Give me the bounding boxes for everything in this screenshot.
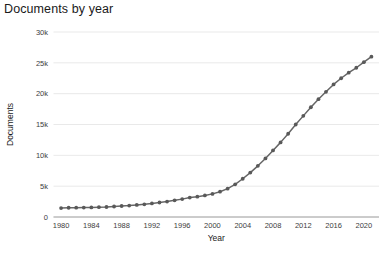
chart-plot-area: 05k10k15k20k25k30k 198019841988199219962… — [0, 0, 386, 256]
data-point-marker — [241, 177, 245, 181]
data-point-marker — [324, 90, 328, 94]
data-series-documents — [59, 55, 373, 210]
series-line-path — [61, 57, 371, 208]
data-point-marker — [135, 203, 139, 207]
data-point-marker — [105, 205, 109, 209]
data-point-marker — [362, 60, 366, 64]
data-point-marker — [233, 182, 237, 186]
x-axis-tick-label: 2008 — [265, 221, 282, 230]
data-point-marker — [226, 187, 230, 191]
x-axis-tick-label: 2004 — [234, 221, 251, 230]
data-point-marker — [218, 190, 222, 194]
data-point-marker — [354, 66, 358, 70]
y-axis-tick-label: 30k — [36, 28, 48, 37]
data-point-marker — [271, 149, 275, 153]
data-point-marker — [82, 206, 86, 210]
data-point-marker — [248, 171, 252, 175]
data-point-marker — [294, 123, 298, 127]
x-axis-tick-labels: 1980198419881992199620002004200820122016… — [53, 221, 372, 230]
data-point-marker — [317, 97, 321, 101]
y-axis-tick-label: 0 — [44, 213, 48, 222]
x-axis-tick-label: 1996 — [174, 221, 191, 230]
data-point-marker — [127, 204, 131, 208]
data-point-marker — [279, 140, 283, 144]
data-point-marker — [195, 195, 199, 199]
y-axis-tick-label: 15k — [36, 120, 48, 129]
data-point-marker — [165, 200, 169, 204]
data-point-marker — [188, 196, 192, 200]
data-point-marker — [370, 55, 374, 59]
data-point-marker — [142, 202, 146, 206]
x-axis-tick-label: 2016 — [325, 221, 342, 230]
data-point-marker — [264, 157, 268, 161]
data-point-marker — [256, 164, 260, 168]
x-axis-tick-label: 1992 — [144, 221, 161, 230]
x-axis-tick-label: 2000 — [204, 221, 221, 230]
documents-by-year-chart: Documents by year 05k10k15k20k25k30k 198… — [0, 0, 386, 256]
y-axis-tick-label: 5k — [40, 182, 48, 191]
gridlines — [54, 32, 380, 217]
data-point-marker — [158, 201, 162, 205]
data-point-marker — [89, 205, 93, 209]
data-point-marker — [120, 204, 124, 208]
data-point-marker — [339, 76, 343, 80]
data-point-marker — [59, 206, 63, 210]
data-point-marker — [180, 197, 184, 201]
x-axis-tick-label: 1980 — [53, 221, 70, 230]
data-point-marker — [211, 192, 215, 196]
data-point-marker — [286, 132, 290, 136]
data-point-marker — [112, 205, 116, 209]
data-point-marker — [74, 206, 78, 210]
data-point-marker — [203, 194, 207, 198]
data-point-marker — [97, 205, 101, 209]
data-point-marker — [173, 198, 177, 202]
data-point-marker — [332, 83, 336, 87]
y-axis-tick-labels: 05k10k15k20k25k30k — [36, 28, 48, 222]
x-axis-tick-label: 1988 — [113, 221, 130, 230]
data-point-marker — [67, 206, 71, 210]
data-point-marker — [347, 71, 351, 75]
data-point-marker — [150, 202, 154, 206]
x-axis-tick-label: 2020 — [356, 221, 373, 230]
y-axis-tick-label: 20k — [36, 89, 48, 98]
y-axis-tick-label: 10k — [36, 151, 48, 160]
y-axis-tick-label: 25k — [36, 59, 48, 68]
data-point-marker — [301, 114, 305, 118]
data-point-marker — [309, 105, 313, 109]
series-markers — [59, 55, 373, 210]
x-axis-title: Year — [208, 233, 225, 243]
y-axis-title: Documents — [5, 103, 15, 146]
x-axis-tick-label: 1984 — [83, 221, 100, 230]
x-axis-tick-label: 2012 — [295, 221, 312, 230]
